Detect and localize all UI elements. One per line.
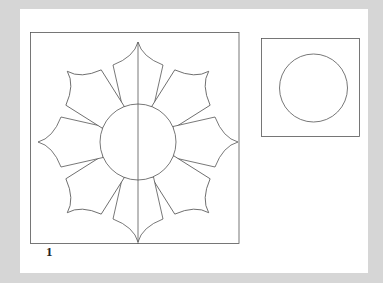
- figure-label: 1: [46, 244, 53, 260]
- pattern-diagram: [0, 0, 383, 283]
